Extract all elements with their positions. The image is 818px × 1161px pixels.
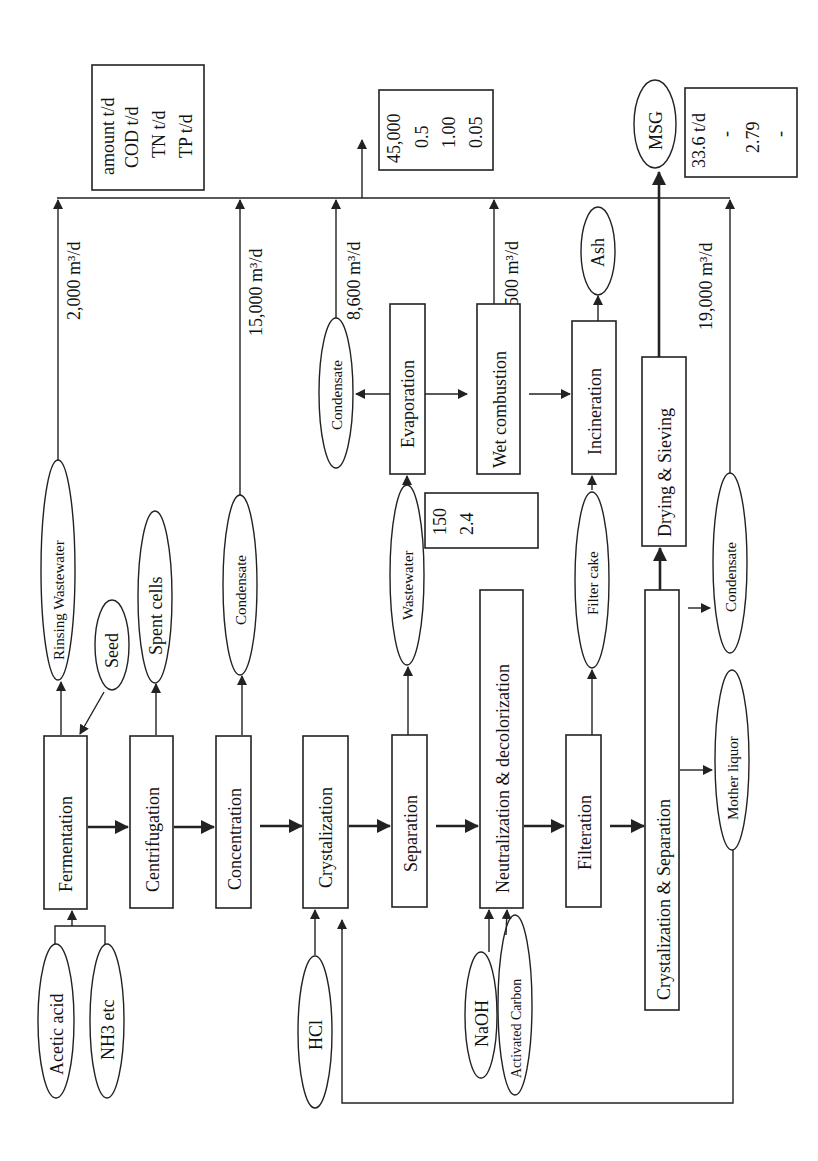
condensate-concentration-label: Condensate <box>233 555 249 625</box>
separation-box: Separation <box>392 735 427 907</box>
mother-liquor-node: Mother liquor <box>715 670 749 850</box>
hcl-node: HCl <box>298 956 332 1108</box>
neutralization-label: Neutralization & decolorization <box>493 664 513 893</box>
final-condensate-flow-label: 19,000 m³/d <box>696 243 716 330</box>
wastewater-values-box: 150 2.4 <box>425 493 538 548</box>
concentration-flow-label: 15,000 m³/d <box>246 249 266 336</box>
condensate-final-node: Condensate <box>713 473 747 653</box>
msg-cod: - <box>716 131 736 137</box>
centrifugation-box: Centrifugation <box>130 736 173 908</box>
nh3-node: NH3 etc <box>90 944 124 1098</box>
msg-tp: - <box>770 131 790 137</box>
fermentation-box: Fermentation <box>44 736 87 909</box>
evaporation-label: Evaporation <box>398 360 418 448</box>
legend-tn: TN t/d <box>149 111 169 159</box>
carbon-to-neutralization-arrow <box>506 910 507 935</box>
concentration-box: Concentration <box>216 736 251 908</box>
acetic-acid-node: Acetic acid <box>38 944 74 1098</box>
spent-cells-node: Spent cells <box>138 511 172 683</box>
concentration-label: Concentration <box>225 788 245 890</box>
activated-carbon-node: Activated Carbon <box>498 915 532 1095</box>
effluent-tn: 1.00 <box>439 117 459 149</box>
rinsing-flow-label: 2,000 m³/d <box>64 242 84 320</box>
spent-cells-label: Spent cells <box>146 577 166 656</box>
hcl-label: HCl <box>306 1020 326 1050</box>
crystalization-label: Crystalization <box>316 787 336 888</box>
nh3-label: NH3 etc <box>98 1000 118 1060</box>
wastewater-cod: 2.4 <box>457 513 477 536</box>
wet-combustion-flow-label: 500 m³/d <box>502 241 522 306</box>
filter-cake-label: Filter cake <box>585 551 601 615</box>
wastewater-label: Wastewater <box>400 550 416 620</box>
incineration-box: Incineration <box>572 321 616 474</box>
acetic-acid-label: Acetic acid <box>47 994 67 1075</box>
seed-label: Seed <box>102 633 122 668</box>
naoh-label: NaOH <box>472 1000 492 1047</box>
naoh-node: NaOH <box>465 952 497 1078</box>
msg-process-flow-diagram: amount t/d COD t/d TN t/d TP t/d 45,000 … <box>0 0 818 1161</box>
effluent-amount: 45,000 <box>384 114 404 164</box>
legend-tp: TP t/d <box>176 114 196 158</box>
legend-box: amount t/d COD t/d TN t/d TP t/d <box>92 65 204 190</box>
filteration-label: Filteration <box>575 795 595 870</box>
msg-label: MSG <box>646 111 666 150</box>
condensate-final-label: Condensate <box>723 542 739 612</box>
separation-label: Separation <box>401 795 421 872</box>
evaporation-box: Evaporation <box>390 304 425 474</box>
seed-to-fermentation-arrow <box>80 692 104 734</box>
fermentation-label: Fermentation <box>56 796 76 892</box>
msg-tn: 2.79 <box>743 122 763 154</box>
wet-combustion-label: Wet combustion <box>490 351 510 468</box>
crystalization-separation-box: Crystalization & Separation <box>645 590 679 1010</box>
drying-sieving-box: Drying & Sieving <box>642 357 686 546</box>
evap-condensate-flow-label: 8,600 m³/d <box>344 242 364 320</box>
wet-combustion-box: Wet combustion <box>477 304 520 474</box>
mother-liquor-label: Mother liquor <box>725 736 741 820</box>
legend-amount: amount t/d <box>98 98 118 176</box>
legend-cod: COD t/d <box>122 106 142 168</box>
activated-carbon-label: Activated Carbon <box>509 979 524 1078</box>
effluent-cod: 0.5 <box>412 126 432 149</box>
ash-label: Ash <box>588 238 608 267</box>
seed-node: Seed <box>95 600 129 690</box>
condensate-evaporation-node: Condensate <box>319 318 353 468</box>
neutralization-box: Neutralization & decolorization <box>480 590 523 908</box>
condensate-concentration-node: Condensate <box>223 495 257 675</box>
rinsing-wastewater-label: Rinsing Wastewater <box>51 540 67 660</box>
filteration-box: Filteration <box>566 735 601 907</box>
filter-cake-node: Filter cake <box>575 492 609 668</box>
msg-amount: 33.6 t/d <box>689 113 709 168</box>
rinsing-wastewater-node: Rinsing Wastewater <box>41 460 75 680</box>
drying-sieving-label: Drying & Sieving <box>655 408 675 537</box>
wastewater-amount: 150 <box>430 508 450 535</box>
crystalization-box: Crystalization <box>303 736 348 908</box>
effluent-tp: 0.05 <box>466 117 486 149</box>
condensate-evaporation-label: Condensate <box>329 360 345 430</box>
effluent-values-box: 45,000 0.5 1.00 0.05 <box>379 90 493 170</box>
msg-values-box: 33.6 t/d - 2.79 - <box>685 88 797 177</box>
centrifugation-label: Centrifugation <box>143 787 163 892</box>
msg-product: MSG <box>634 80 676 168</box>
crystalization-separation-label: Crystalization & Separation <box>654 799 674 1000</box>
incineration-label: Incineration <box>585 368 605 455</box>
wastewater-node: Wastewater <box>390 485 424 665</box>
ash-node: Ash <box>581 207 615 295</box>
feed-merge-line <box>55 926 105 945</box>
